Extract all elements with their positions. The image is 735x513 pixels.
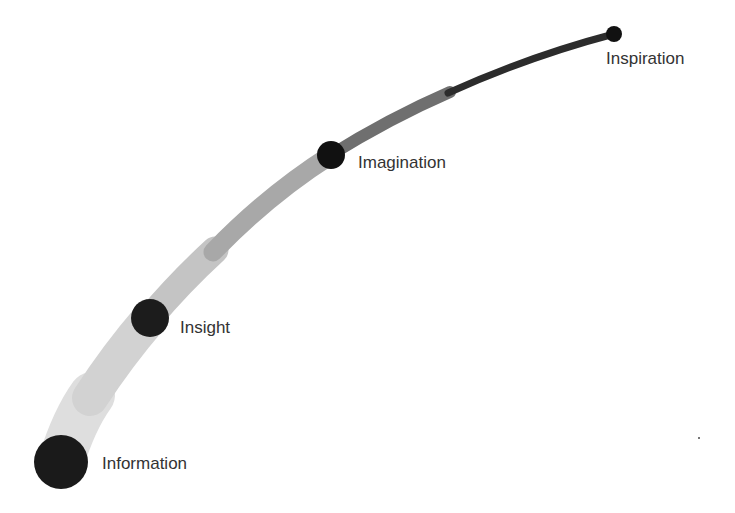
stage-node-imagination — [317, 141, 345, 169]
stage-node-information — [34, 435, 88, 489]
stage-label-insight: Insight — [180, 318, 230, 338]
growth-curve-diagram — [0, 0, 735, 513]
stage-label-inspiration: Inspiration — [606, 49, 684, 69]
tapering-curve — [61, 34, 614, 462]
stage-nodes — [34, 26, 622, 489]
stage-label-information: Information — [102, 454, 187, 474]
stage-node-insight — [131, 299, 169, 337]
stage-label-imagination: Imagination — [358, 153, 446, 173]
stage-node-inspiration — [606, 26, 622, 42]
stray-dot — [698, 437, 700, 439]
